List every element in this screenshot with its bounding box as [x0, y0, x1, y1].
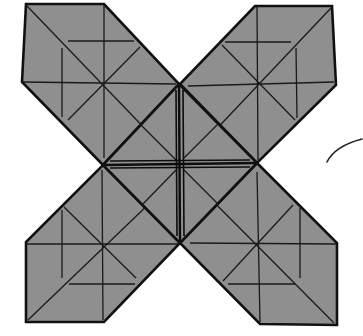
curved-arrow-icon	[327, 139, 362, 162]
origami-diagram	[0, 0, 363, 336]
